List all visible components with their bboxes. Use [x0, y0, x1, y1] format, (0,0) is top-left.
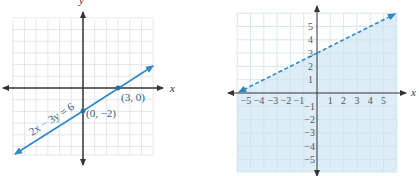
svg-text:−3: −3 [268, 95, 279, 106]
svg-text:2: 2 [341, 95, 346, 106]
svg-text:−5: −5 [304, 154, 315, 165]
svg-text:5: 5 [381, 95, 386, 106]
svg-text:−3: −3 [304, 127, 315, 138]
point-label-0-neg2: (0, −2) [86, 107, 116, 120]
right-graph: x −5 −4 −3 −2 −1 1 2 3 4 5 5 4 3 2 1 −1 … [228, 6, 416, 176]
equation-label: 2x − 3y = 6 [27, 100, 77, 138]
svg-text:−4: −4 [304, 141, 315, 152]
right-x-label: x [410, 86, 416, 98]
figure: x y (0, −2) (3, 0) 2x − 3y = 6 [0, 0, 419, 176]
svg-text:5: 5 [308, 21, 313, 32]
left-y-label: y [78, 0, 84, 6]
svg-text:−5: −5 [241, 95, 252, 106]
svg-text:−4: −4 [254, 95, 265, 106]
svg-text:3: 3 [354, 95, 359, 106]
point-label-3-0: (3, 0) [121, 91, 145, 104]
svg-text:1: 1 [308, 74, 313, 85]
svg-text:1: 1 [328, 95, 333, 106]
svg-text:4: 4 [308, 34, 313, 45]
svg-text:4: 4 [368, 95, 373, 106]
left-graph: x y (0, −2) (3, 0) 2x − 3y = 6 [3, 0, 175, 165]
svg-text:−2: −2 [304, 114, 315, 125]
svg-text:2: 2 [308, 61, 313, 72]
left-x-label: x [169, 82, 175, 94]
svg-text:−1: −1 [304, 101, 315, 112]
svg-text:−2: −2 [281, 95, 292, 106]
point-3-0 [116, 86, 121, 91]
svg-text:−1: −1 [294, 95, 305, 106]
point-0-neg2 [81, 109, 86, 114]
svg-text:3: 3 [308, 48, 313, 59]
